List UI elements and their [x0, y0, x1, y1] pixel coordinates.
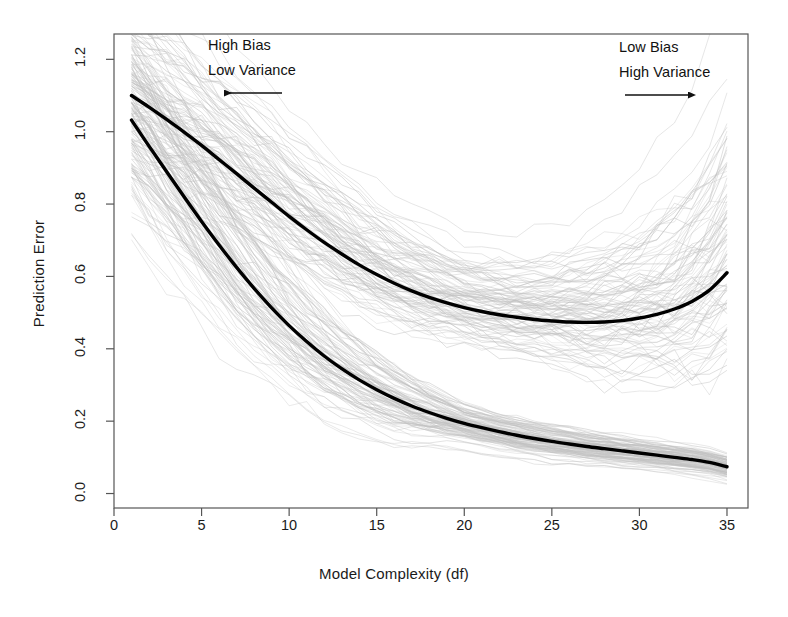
y-tick-label: 1.2 [72, 37, 88, 77]
x-tick-label: 10 [269, 517, 309, 533]
y-axis-title: Prediction Error [30, 174, 47, 374]
x-tick-label: 15 [357, 517, 397, 533]
annotation-high-bias: High Bias [208, 37, 271, 53]
annotation-low-variance: Low Variance [208, 62, 296, 78]
y-tick-label: 0.8 [72, 182, 88, 222]
x-axis-title: Model Complexity (df) [0, 565, 788, 582]
x-tick-label: 25 [532, 517, 572, 533]
y-tick-label: 1.0 [72, 110, 88, 150]
figure-root: Model Complexity (df) Prediction Error 0… [0, 0, 788, 617]
x-tick-label: 0 [94, 517, 134, 533]
y-tick-label: 0.2 [72, 399, 88, 439]
y-tick-label: 0.6 [72, 254, 88, 294]
x-tick-label: 5 [182, 517, 222, 533]
x-tick-label: 30 [619, 517, 659, 533]
x-tick-label: 20 [444, 517, 484, 533]
annotation-high-variance: High Variance [619, 64, 710, 80]
annotation-low-bias: Low Bias [619, 39, 679, 55]
x-tick-label: 35 [707, 517, 747, 533]
y-tick-label: 0.4 [72, 327, 88, 367]
y-tick-label: 0.0 [72, 472, 88, 512]
